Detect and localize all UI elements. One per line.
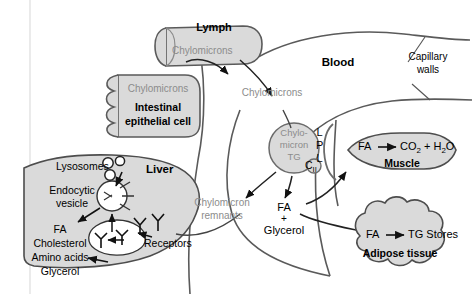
lipolysis-glycerol-label: Glycerol xyxy=(264,225,304,237)
coated-pit xyxy=(89,220,146,255)
liver-product-glycerol: Glycerol xyxy=(41,266,80,277)
lysosomes-label: Lysosomes xyxy=(56,161,109,172)
lpl-letter-p: P xyxy=(316,139,323,152)
liver-product-amino-acids: Amino acids xyxy=(31,252,88,263)
muscle-fa-label: FA xyxy=(358,141,371,153)
blood-label: Blood xyxy=(322,56,355,68)
remnants-label-line2: remnants xyxy=(201,211,243,222)
muscle-co2: CO2 xyxy=(400,140,421,152)
lymph-vessel-opening xyxy=(155,28,166,66)
blood-chylomicrons-label: Chylomicrons xyxy=(242,88,303,99)
lymph-chylomicrons-label: Chylomicrons xyxy=(172,46,233,57)
liver-product-cholesterol: Cholesterol xyxy=(33,238,86,249)
adipose-label: Adipose tissue xyxy=(363,248,438,259)
remnant-formation-arrow xyxy=(246,172,276,198)
remnants-label-line1: Chylomicron xyxy=(194,198,250,209)
muscle-plus: + xyxy=(424,140,430,152)
endocytic-vesicle-label-line2: vesicle xyxy=(56,198,88,209)
liver-label: Liver xyxy=(146,163,174,175)
capillary-leader-lower xyxy=(412,84,430,100)
lpl-letter-l1: L xyxy=(317,126,323,139)
adipose-product-label: TG Stores xyxy=(408,229,458,241)
lpl-label: L P L xyxy=(316,126,323,165)
receptors-label: Receptors xyxy=(144,238,192,249)
endocytic-vesicle-label-line1: Endocytic xyxy=(49,185,95,196)
chylomicron-label-line1: Chylo- xyxy=(280,128,307,138)
diagram-canvas: Lymph Chylomicrons Chylomicrons Intestin… xyxy=(0,0,475,294)
vessel-edge-lower-right xyxy=(316,160,330,276)
apoc2-subscript: II xyxy=(313,165,317,174)
lipolysis-plus-label: + xyxy=(281,214,287,225)
chylomicron-label-line2: micron xyxy=(280,140,309,150)
chylomicron-label-tg: TG xyxy=(287,152,300,162)
muscle-products-label: CO2 + H2O xyxy=(400,141,454,156)
apoc2-letter: C xyxy=(305,159,313,171)
lipolysis-fa-label: FA xyxy=(277,202,290,214)
vessel-inner-right xyxy=(334,120,338,206)
lysosome-circle xyxy=(115,156,124,165)
lpl-letter-l2: L xyxy=(317,152,323,165)
capillary-walls-label-line2: walls xyxy=(417,65,439,76)
capillary-walls-label-line1: Capillary xyxy=(409,52,448,63)
muscle-h2o: H2O xyxy=(433,140,454,152)
vessel-edge-left xyxy=(189,34,204,294)
microvilli-brush-border xyxy=(107,75,119,137)
intestinal-cell-label-line2: epithelial cell xyxy=(125,116,191,127)
lymph-label: Lymph xyxy=(196,22,232,34)
adipose-fa-label: FA xyxy=(366,229,379,241)
liver-product-fa: FA xyxy=(54,224,67,235)
intestinal-cell-label-line1: Intestinal xyxy=(135,102,181,113)
muscle-label: Muscle xyxy=(384,158,420,169)
intestine-chylomicrons-label: Chylomicrons xyxy=(128,84,189,95)
lipolysis-arrow xyxy=(285,176,292,198)
fa-to-muscle-arrow xyxy=(306,172,346,204)
